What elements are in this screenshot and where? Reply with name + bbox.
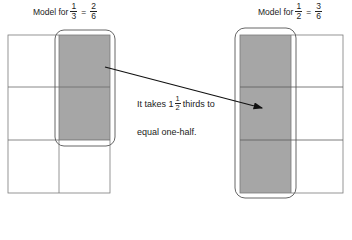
caption-line-2-text: equal one-half. (137, 127, 197, 137)
right-grid (235, 28, 343, 198)
caption-prefix: It takes 1 (137, 99, 174, 109)
shaded-column (240, 35, 291, 193)
shaded-cell (59, 87, 110, 140)
left-grid (8, 30, 115, 193)
shaded-cell (59, 35, 110, 87)
caption-mixed-fraction: 1 2 (175, 95, 181, 112)
caption-suffix: thirds to (183, 99, 215, 109)
caption-line-1: It takes 1 1 2 thirds to (137, 95, 215, 112)
fraction-denominator: 2 (176, 104, 180, 112)
caption-line-2: equal one-half. (137, 127, 197, 137)
